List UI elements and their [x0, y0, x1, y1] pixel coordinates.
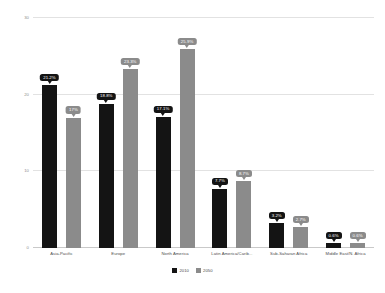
bar-chart: 0102030 21.2%17%18.8%23.3%17.1%25.9%7.7%…: [0, 0, 385, 293]
bar-group: 18.8%23.3%: [90, 18, 147, 248]
bar-column: 18.8%: [99, 104, 114, 248]
bar[interactable]: [269, 223, 284, 248]
bar[interactable]: [350, 243, 365, 248]
x-axis-category-label: Middle East/N. Africa: [317, 251, 374, 256]
bar-group: 3.2%2.7%: [260, 18, 317, 248]
legend-item[interactable]: 2050: [196, 268, 213, 273]
bar-value-label: 18.8%: [97, 93, 115, 100]
bar-value-text: 18.8%: [100, 93, 112, 98]
bar-column: 3.2%: [269, 223, 284, 248]
bar-value-text: 21.2%: [43, 75, 55, 80]
legend-swatch-icon: [172, 268, 177, 273]
bar-value-label: 2.7%: [293, 216, 309, 223]
bar-value-label: 23.3%: [121, 58, 139, 65]
x-axis-category-label: Sub-Saharan Africa: [260, 251, 317, 256]
bar-group: 17.1%25.9%: [147, 18, 204, 248]
bar-column: 17%: [66, 118, 81, 248]
y-axis-tick-label: 0: [27, 245, 29, 250]
x-axis-category-label: Latin America/Carib...: [203, 251, 260, 256]
bar-value-label: 21.2%: [40, 74, 58, 81]
y-axis-tick-label: 30: [24, 15, 29, 20]
chart-legend: 20102050: [0, 268, 385, 273]
bar-column: 23.3%: [123, 69, 138, 248]
bar-value-text: 8.7%: [239, 171, 249, 176]
bar-value-label: 0.6%: [326, 232, 342, 239]
y-axis-tick-label: 10: [24, 168, 29, 173]
bar[interactable]: [42, 85, 57, 248]
bar-value-label: 8.7%: [236, 170, 252, 177]
y-axis-tick-label: 20: [24, 91, 29, 96]
bar-group: 7.7%8.7%: [203, 18, 260, 248]
bar-value-label: 3.2%: [269, 212, 285, 219]
bar-column: 8.7%: [236, 181, 251, 248]
x-axis-category-label: Europe: [90, 251, 147, 256]
bar-group: 0.6%0.6%: [317, 18, 374, 248]
bar-value-text: 25.9%: [181, 39, 193, 44]
bar-value-text: 17.1%: [157, 106, 169, 111]
bar-group: 21.2%17%: [33, 18, 90, 248]
bar-value-label: 0.6%: [350, 232, 366, 239]
bar-column: 0.6%: [350, 243, 365, 248]
bar[interactable]: [99, 104, 114, 248]
bar-column: 17.1%: [156, 117, 171, 248]
legend-label: 2050: [203, 268, 213, 273]
bar-value-text: 0.6%: [329, 233, 339, 238]
x-axis-labels: Asia-PacificEuropeNorth AmericaLatin Ame…: [33, 251, 374, 256]
bar-groups: 21.2%17%18.8%23.3%17.1%25.9%7.7%8.7%3.2%…: [33, 18, 374, 248]
bar[interactable]: [66, 118, 81, 248]
bar-column: 0.6%: [326, 243, 341, 248]
bar[interactable]: [123, 69, 138, 248]
bar[interactable]: [236, 181, 251, 248]
bar[interactable]: [180, 49, 195, 248]
bar-value-text: 3.2%: [272, 213, 282, 218]
x-axis-category-label: Asia-Pacific: [33, 251, 90, 256]
bar-value-text: 17%: [69, 107, 78, 112]
bar-column: 2.7%: [293, 227, 308, 248]
legend-item[interactable]: 2010: [172, 268, 189, 273]
bar-column: 21.2%: [42, 85, 57, 248]
bar-value-text: 0.6%: [353, 233, 363, 238]
x-axis-category-label: North America: [147, 251, 204, 256]
bar-column: 25.9%: [180, 49, 195, 248]
bar[interactable]: [326, 243, 341, 248]
plot-area: 0102030 21.2%17%18.8%23.3%17.1%25.9%7.7%…: [33, 18, 374, 248]
bar-value-label: 17%: [66, 106, 81, 113]
bar-value-text: 7.7%: [215, 178, 225, 183]
bar[interactable]: [156, 117, 171, 248]
legend-swatch-icon: [196, 268, 201, 273]
bar-value-label: 25.9%: [178, 38, 196, 45]
legend-label: 2010: [179, 268, 189, 273]
bar-value-text: 2.7%: [296, 217, 306, 222]
bar-value-text: 23.3%: [124, 59, 136, 64]
bar-column: 7.7%: [212, 189, 227, 248]
bar-value-label: 17.1%: [154, 106, 172, 113]
bar[interactable]: [212, 189, 227, 248]
bar[interactable]: [293, 227, 308, 248]
bar-value-label: 7.7%: [212, 178, 228, 185]
